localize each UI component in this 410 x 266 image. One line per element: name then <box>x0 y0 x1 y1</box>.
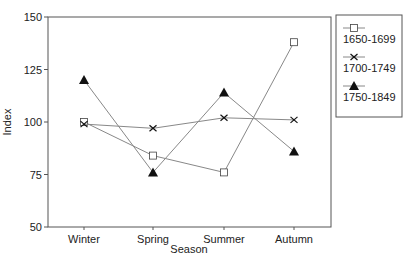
triangle-marker-icon <box>79 75 89 84</box>
series-1700-1749 <box>81 115 298 132</box>
square-marker-icon <box>150 152 157 159</box>
series-line <box>84 42 294 172</box>
series-1650-1699 <box>81 39 298 176</box>
triangle-marker-icon <box>219 88 229 97</box>
series-line <box>84 118 294 129</box>
x-tick-label: Spring <box>137 233 169 245</box>
line-chart: 5075100125150 WinterSpringSummerAutumn I… <box>0 0 410 266</box>
legend-label: 1750-1849 <box>343 91 396 103</box>
legend-label: 1700-1749 <box>343 62 396 74</box>
y-tick-label: 50 <box>30 221 42 233</box>
y-tick-label: 125 <box>24 64 42 76</box>
y-tick-label: 75 <box>30 169 42 181</box>
y-tick-label: 150 <box>24 11 42 23</box>
legend-label: 1650-1699 <box>343 33 396 45</box>
plot-area <box>48 17 331 227</box>
legend: 1650-16991700-17491750-1849 <box>336 15 402 117</box>
x-tick-label: Autumn <box>275 233 313 245</box>
square-marker-icon <box>221 169 228 176</box>
square-marker-icon <box>351 25 358 32</box>
y-axis: 5075100125150 <box>24 11 48 233</box>
y-axis-label: Index <box>1 108 13 135</box>
series-layer <box>79 39 299 177</box>
square-marker-icon <box>291 39 298 46</box>
x-tick-label: Winter <box>68 233 100 245</box>
x-tick-label: Summer <box>203 233 245 245</box>
x-axis-label: Season <box>170 243 207 255</box>
y-tick-label: 100 <box>24 116 42 128</box>
triangle-marker-icon <box>289 146 299 155</box>
plot-border <box>48 17 331 227</box>
